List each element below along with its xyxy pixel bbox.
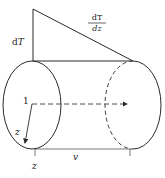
gradient-fraction: dT dz <box>88 13 106 33</box>
gradient-triangle <box>33 9 133 61</box>
dT-label: dT <box>12 37 25 47</box>
right-cross-section-visible <box>133 61 161 149</box>
point-label: 1 <box>23 96 29 106</box>
radial-arrow <box>25 104 32 143</box>
velocity-label: v <box>73 152 78 162</box>
right-cross-section-hidden <box>105 61 133 149</box>
cylinder-gradient-diagram: dT dT dz 1 z z v <box>0 0 165 178</box>
gradient-denominator: dz <box>92 24 102 33</box>
radial-axis-label: z <box>14 127 20 137</box>
gradient-numerator: dT <box>92 13 103 22</box>
triangle-hypotenuse <box>33 9 133 61</box>
axial-position-label: z <box>31 161 37 171</box>
